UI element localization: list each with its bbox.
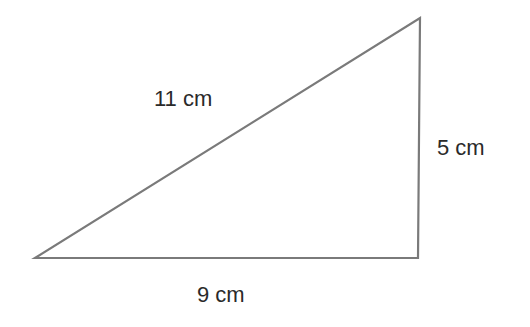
vertical-side-label: 5 cm	[437, 137, 485, 159]
hypotenuse-label: 11 cm	[154, 88, 212, 110]
triangle-shape	[35, 18, 420, 258]
base-label: 9 cm	[197, 284, 245, 306]
triangle-diagram	[0, 0, 530, 327]
